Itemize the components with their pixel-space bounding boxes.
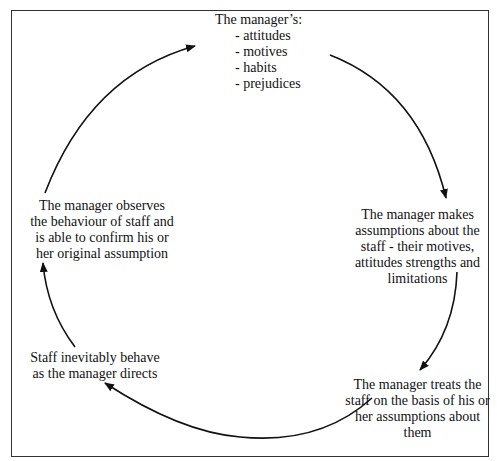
arrow-treats-to-behave	[105, 383, 372, 438]
node-text-line: The manager observes	[12, 198, 192, 214]
node-text-line: the behaviour of staff and	[12, 214, 192, 230]
arrow-observes-to-traits	[45, 46, 195, 193]
node-text-line: staff - their motives,	[340, 239, 495, 255]
node-text-line: The manager makes	[340, 207, 495, 223]
node-title: The manager’s:	[215, 12, 302, 28]
node-text-line: her original assumption	[12, 246, 192, 262]
node-staff-behave: Staff inevitably behave as the manager d…	[15, 350, 175, 382]
trait-item: motives	[235, 44, 302, 60]
arrow-behave-to-observes	[43, 263, 75, 347]
trait-item: prejudices	[235, 76, 302, 92]
trait-list: attitudes motives habits prejudices	[215, 28, 302, 92]
node-text-line: is able to confirm his or	[12, 230, 192, 246]
node-text-line: Staff inevitably behave	[15, 350, 175, 366]
node-makes-assumptions: The manager makes assumptions about the …	[340, 207, 495, 287]
node-text-line: her assumptions about	[335, 409, 497, 425]
node-text-line: as the manager directs	[15, 366, 175, 382]
node-observes-confirms: The manager observes the behaviour of st…	[12, 198, 192, 262]
node-manager-traits: The manager’s: attitudes motives habits …	[215, 12, 302, 92]
trait-item: attitudes	[235, 28, 302, 44]
arrow-traits-to-assumptions	[330, 55, 446, 198]
node-text-line: The manager treats the	[335, 377, 497, 393]
trait-item: habits	[235, 60, 302, 76]
node-text-line: limitations	[340, 271, 495, 287]
node-treats-staff: The manager treats the staff on the basi…	[335, 377, 497, 441]
node-text-line: attitudes strengths and	[340, 255, 495, 271]
node-text-line: assumptions about the	[340, 223, 495, 239]
node-text-line: them	[335, 425, 497, 441]
node-text-line: staff on the basis of his or	[335, 393, 497, 409]
